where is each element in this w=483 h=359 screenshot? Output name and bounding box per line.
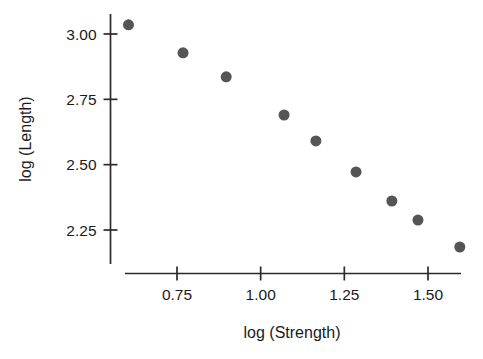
data-point [351, 166, 362, 177]
x-axis-title: log (Strength) [244, 324, 341, 341]
data-point [279, 110, 290, 121]
x-tick-label: 1.50 [413, 286, 444, 303]
y-tick-label: 3.00 [66, 26, 97, 43]
y-tick-label: 2.50 [66, 156, 97, 173]
x-tick-label: 1.25 [329, 286, 359, 303]
data-point-group [123, 19, 465, 252]
y-tick-label: 2.25 [66, 222, 96, 239]
data-point [310, 135, 321, 146]
data-point [454, 241, 465, 252]
x-tick-group: 0.751.001.251.50 [162, 267, 444, 303]
x-tick-label: 1.00 [246, 286, 277, 303]
data-point [412, 215, 423, 226]
data-point [386, 195, 397, 206]
data-point [178, 47, 189, 58]
data-point [123, 19, 134, 30]
data-point [221, 71, 232, 82]
scatter-plot-figure: 2.252.502.753.00 0.751.001.251.50 log (S… [0, 0, 483, 359]
x-tick-label: 0.75 [162, 286, 192, 303]
y-axis-title: log (Length) [17, 96, 34, 181]
y-tick-label: 2.75 [66, 91, 96, 108]
plot-canvas: 2.252.502.753.00 0.751.001.251.50 log (S… [0, 0, 483, 359]
